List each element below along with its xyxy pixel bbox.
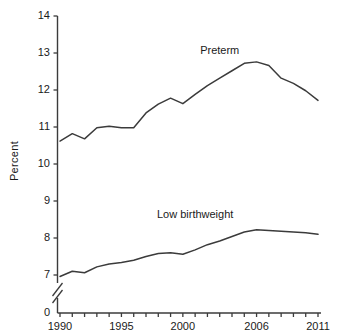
y-tick-label: 11	[26, 120, 50, 132]
chart-figure: Percent 07891011121314 19901995200020062…	[0, 0, 337, 336]
chart-axes	[53, 16, 322, 317]
chart-plot-area	[0, 0, 337, 336]
y-tick-label: 12	[26, 83, 50, 95]
series-label-low-birthweight: Low birthweight	[157, 208, 233, 220]
y-tick-label: 7	[26, 268, 50, 280]
x-tick-label: 2006	[237, 320, 277, 332]
y-tick-label: 13	[26, 46, 50, 58]
y-tick-label: 14	[26, 9, 50, 21]
series-label-preterm: Preterm	[200, 44, 239, 56]
chart-series-lines	[60, 62, 318, 277]
y-tick-label: 10	[26, 157, 50, 169]
y-tick-label: 8	[26, 231, 50, 243]
x-tick-label: 2011	[298, 320, 337, 332]
x-tick-label: 1995	[101, 320, 141, 332]
x-tick-label: 1990	[40, 320, 80, 332]
y-tick-label: 9	[26, 194, 50, 206]
x-tick-label: 2000	[163, 320, 203, 332]
y-tick-label: 0	[26, 306, 50, 318]
